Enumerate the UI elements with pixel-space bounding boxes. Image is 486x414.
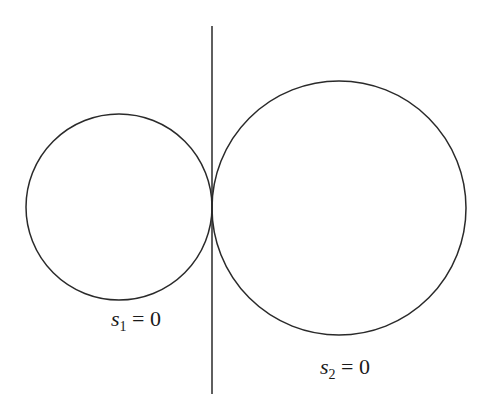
circle-s2	[212, 81, 466, 335]
label-s1-var: s	[111, 306, 120, 331]
circle-s1	[26, 114, 212, 300]
label-s1: s1 = 0	[111, 306, 161, 335]
label-s1-rest: = 0	[127, 306, 161, 331]
label-s2-var: s	[320, 354, 329, 379]
label-s2-sub: 2	[329, 367, 336, 382]
diagram-canvas	[0, 0, 486, 414]
label-s2-rest: = 0	[336, 354, 370, 379]
label-s1-sub: 1	[120, 319, 127, 334]
label-s2: s2 = 0	[320, 354, 370, 383]
